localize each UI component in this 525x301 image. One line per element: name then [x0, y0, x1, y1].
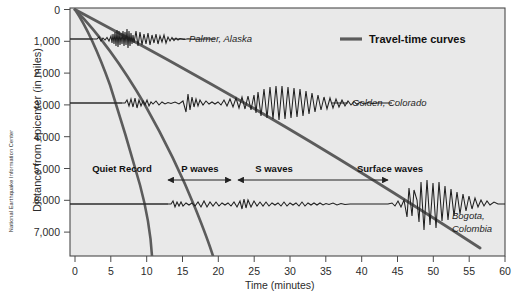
x-axis-ticks — [75, 256, 505, 262]
x-tick-label: 0 — [72, 265, 78, 277]
y-axis-tick-labels: 0 1,000 2,000 3,000 4,000 5,000 6,000 7,… — [34, 4, 60, 239]
travel-time-curves-figure: National Earthquake Information Center D… — [0, 0, 525, 301]
x-tick-label: 35 — [320, 265, 332, 277]
x-tick-label: 25 — [248, 265, 260, 277]
station-label-palmer: Palmer, Alaska — [189, 33, 252, 44]
y-tick-label: 1,000 — [34, 35, 60, 47]
x-tick-label: 30 — [284, 265, 296, 277]
y-tick-label: 4,000 — [34, 131, 60, 143]
y-tick-label: 3,000 — [34, 99, 60, 111]
x-tick-label: 15 — [177, 265, 189, 277]
x-tick-label: 5 — [108, 265, 114, 277]
y-tick-label: 2,000 — [34, 67, 60, 79]
y-axis-ticks — [64, 10, 70, 233]
y-tick-label: 5,000 — [34, 163, 60, 175]
annotation-surface-waves: Surface waves — [357, 163, 423, 174]
x-tick-label: 40 — [356, 265, 368, 277]
plot-background — [70, 8, 505, 256]
annotation-s-waves: S waves — [255, 163, 293, 174]
y-tick-label: 7,000 — [34, 226, 60, 238]
phase-annotations: Quiet Record P waves S waves Surface wav… — [92, 163, 423, 174]
x-axis-tick-labels: 0 5 10 15 20 25 30 35 40 45 50 55 60 — [72, 265, 511, 277]
x-tick-label: 20 — [212, 265, 224, 277]
x-tick-label: 50 — [427, 265, 439, 277]
seismogram-plot: 0 1,000 2,000 3,000 4,000 5,000 6,000 7,… — [0, 0, 525, 301]
legend-label-travel-time-curves: Travel-time curves — [369, 33, 466, 45]
station-label-bogota-line1: Bogota, — [452, 210, 485, 221]
y-tick-label: 6,000 — [34, 194, 60, 206]
x-tick-label: 55 — [463, 265, 475, 277]
annotation-quiet-record: Quiet Record — [92, 163, 152, 174]
x-tick-label: 45 — [392, 265, 404, 277]
station-label-bogota-line2: Colombia — [452, 223, 492, 234]
y-tick-label: 0 — [54, 4, 60, 16]
x-tick-label: 10 — [141, 265, 153, 277]
station-label-golden: Golden, Colorado — [352, 97, 426, 108]
x-tick-label: 60 — [499, 265, 511, 277]
annotation-p-waves: P waves — [181, 163, 218, 174]
